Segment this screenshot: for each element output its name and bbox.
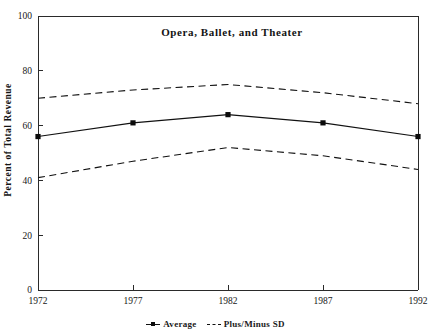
x-tick-label-1992: 1992 bbox=[409, 296, 428, 306]
y-axis-title-group: Percent of Total Revenue bbox=[3, 83, 13, 196]
y-tick-label-40: 40 bbox=[23, 176, 33, 186]
y-tick-label-60: 60 bbox=[23, 121, 33, 131]
legend-dashed-line-icon bbox=[207, 320, 221, 328]
y-tick-label-20: 20 bbox=[23, 231, 33, 241]
x-tick-group: 19721977198219871992 bbox=[29, 285, 428, 306]
y-tick-label-100: 100 bbox=[18, 11, 33, 21]
data-point-marker bbox=[130, 120, 135, 125]
y-axis-title: Percent of Total Revenue bbox=[3, 83, 13, 196]
legend-label-average: Average bbox=[163, 319, 196, 329]
legend-entry-average: Average bbox=[146, 319, 196, 329]
chart-legend: Average Plus/Minus SD bbox=[0, 319, 431, 329]
chart-title: Opera, Ballet, and Theater bbox=[161, 26, 303, 38]
x-tick-label-1972: 1972 bbox=[29, 296, 48, 306]
plot-axes bbox=[38, 16, 418, 290]
y-tick-label-80: 80 bbox=[23, 66, 33, 76]
data-point-marker bbox=[35, 134, 40, 139]
x-tick-label-1982: 1982 bbox=[219, 296, 238, 306]
series-line-minus-sd bbox=[38, 148, 418, 178]
data-point-marker bbox=[415, 134, 420, 139]
series-line-plus-sd bbox=[38, 85, 418, 104]
legend-label-plus-minus-sd: Plus/Minus SD bbox=[224, 319, 285, 329]
y-tick-label-0: 0 bbox=[27, 285, 32, 295]
figure-root: Opera, Ballet, and Theater Percent of To… bbox=[0, 0, 431, 329]
y-tick-group: 020406080100 bbox=[18, 11, 43, 295]
data-point-marker bbox=[320, 120, 325, 125]
x-tick-label-1987: 1987 bbox=[314, 296, 333, 306]
series-line-average bbox=[38, 115, 418, 137]
legend-entry-plus-minus-sd: Plus/Minus SD bbox=[207, 319, 285, 329]
chart-canvas: Opera, Ballet, and Theater Percent of To… bbox=[0, 0, 431, 329]
data-point-marker bbox=[225, 112, 230, 117]
x-tick-label-1977: 1977 bbox=[124, 296, 143, 306]
series-layer bbox=[35, 85, 420, 178]
legend-solid-line-marker-icon bbox=[146, 320, 160, 328]
chart-title-group: Opera, Ballet, and Theater bbox=[161, 26, 303, 38]
